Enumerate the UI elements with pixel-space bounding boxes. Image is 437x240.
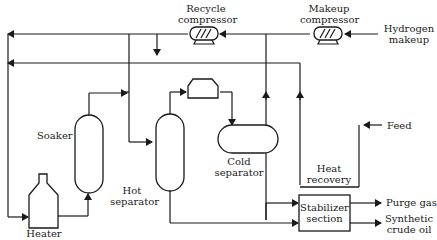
cooler-to-cold-separator-line [220, 92, 232, 125]
soaker-overhead-line [89, 93, 127, 116]
stabilizer-label: Stabilizer section [299, 202, 350, 224]
recycle-compressor-label: Recycle compressor [178, 3, 234, 25]
heat-recovery-label: Heat recovery [300, 163, 358, 185]
heater-icon [29, 174, 58, 228]
hot-separator-label-line1: Hot [110, 185, 154, 196]
hot-separator-label: Hot separator [110, 185, 154, 207]
stabilizer-label-line1: Stabilizer [299, 202, 350, 213]
heat-recovery-label-line2: recovery [300, 174, 358, 185]
hot-separator-overhead-line [170, 92, 186, 115]
hydrogen-makeup-label: Hydrogen makeup [382, 23, 436, 45]
hot-separator-vessel-icon [156, 114, 184, 191]
recycle-compressor-label-line1: Recycle [178, 3, 234, 14]
up-arrows [266, 92, 300, 100]
recycle-header-line [8, 34, 188, 55]
synthetic-crude-label: Synthetic crude oil [384, 213, 434, 235]
cold-separator-bottoms-line [266, 203, 298, 220]
cold-separator-label-line1: Cold [211, 156, 267, 167]
makeup-compressor-label-line1: Makeup [300, 3, 358, 14]
heat-recovery-label-line1: Heat [300, 163, 358, 174]
synthetic-crude-label-line1: Synthetic [384, 213, 434, 224]
soaker-vessel-icon [75, 115, 103, 193]
hot-separator-bottoms-line [170, 190, 298, 223]
recycle-compressor-icon [190, 27, 218, 44]
cold-separator-vessel-icon [218, 125, 278, 153]
soaker-label: Soaker [37, 130, 73, 141]
makeup-compressor-icon [314, 27, 342, 44]
makeup-compressor-label: Makeup compressor [300, 3, 358, 25]
heater-to-soaker-line [58, 194, 88, 216]
purge-gas-label: Purge gas [386, 197, 437, 208]
hydrogen-makeup-label-line2: makeup [382, 34, 436, 45]
left-return-line [8, 34, 28, 217]
synthetic-crude-label-line2: crude oil [384, 224, 434, 235]
recycle-compressor-label-line2: compressor [178, 14, 234, 25]
makeup-compressor-label-line2: compressor [300, 14, 358, 25]
feed-label: Feed [387, 120, 412, 131]
hot-separator-label-line2: separator [110, 196, 154, 207]
hydrogen-to-hot-separator [125, 34, 152, 142]
stabilizer-label-line2: section [299, 213, 350, 224]
hydrogen-makeup-label-line1: Hydrogen [382, 23, 436, 34]
cold-separator-label: Cold separator [211, 156, 267, 178]
stabilizer-outputs [350, 203, 381, 223]
cold-separator-label-line2: separator [211, 167, 267, 178]
heater-label: Heater [22, 228, 66, 239]
cooler-icon [188, 79, 218, 98]
